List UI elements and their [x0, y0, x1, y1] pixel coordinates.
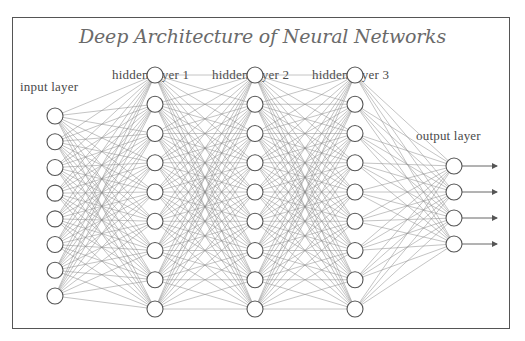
hidden2-node [247, 184, 263, 200]
edge [55, 75, 155, 193]
hidden3-node [347, 272, 363, 288]
hidden3-node [347, 213, 363, 229]
input-node [47, 237, 63, 253]
hidden2-node [247, 301, 263, 317]
hidden2-node [247, 243, 263, 259]
output-node [446, 210, 462, 226]
edge [355, 192, 454, 221]
hidden3-node [347, 67, 363, 83]
edge [355, 244, 454, 309]
edge [55, 75, 155, 219]
edge [55, 163, 155, 271]
output-node [446, 236, 462, 252]
hidden3-node [347, 155, 363, 171]
edge [355, 221, 454, 244]
input-node [47, 262, 63, 278]
hidden1-node [147, 96, 163, 112]
hidden2-node [247, 96, 263, 112]
input-node [47, 134, 63, 150]
hidden3-node [347, 243, 363, 259]
hidden3-node [347, 126, 363, 142]
hidden1-node [147, 184, 163, 200]
edge [355, 218, 454, 309]
network-graph [0, 0, 525, 341]
output-node [446, 158, 462, 174]
hidden1-node [147, 301, 163, 317]
hidden3-node [347, 301, 363, 317]
input-node [47, 288, 63, 304]
edge [355, 104, 454, 166]
hidden1-node [147, 126, 163, 142]
output-arrows [462, 166, 497, 244]
edge [355, 192, 454, 251]
edge [55, 134, 155, 142]
hidden3-node [347, 96, 363, 112]
edge [355, 218, 454, 221]
edge [355, 192, 454, 309]
hidden2-node [247, 67, 263, 83]
input-node [47, 185, 63, 201]
hidden2-node [247, 126, 263, 142]
edge [55, 134, 155, 219]
edge [55, 163, 155, 296]
edge [55, 116, 155, 134]
hidden1-node [147, 243, 163, 259]
edge [55, 296, 155, 309]
input-node [47, 108, 63, 124]
hidden1-node [147, 155, 163, 171]
hidden1-node [147, 272, 163, 288]
input-node [47, 211, 63, 227]
hidden3-node [347, 184, 363, 200]
hidden2-node [247, 272, 263, 288]
edge [55, 192, 155, 193]
edge [55, 251, 155, 297]
hidden2-node [247, 155, 263, 171]
edge [55, 104, 155, 270]
hidden1-node [147, 213, 163, 229]
hidden1-node [147, 67, 163, 83]
output-node [446, 184, 462, 200]
edge [355, 218, 454, 280]
input-node [47, 159, 63, 175]
edge [355, 163, 454, 166]
edge [55, 75, 155, 270]
edge [355, 75, 454, 166]
hidden2-node [247, 213, 263, 229]
